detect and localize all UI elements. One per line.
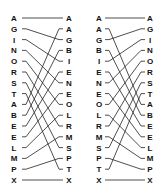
left-label: R: [11, 68, 17, 77]
left-label: T: [97, 165, 102, 174]
left-label: M: [96, 133, 103, 142]
connection-line: [105, 29, 145, 105]
left-label: N: [96, 79, 102, 88]
left-label: O: [96, 100, 102, 109]
right-label: X: [147, 176, 153, 185]
right-label: N: [66, 79, 72, 88]
left-label: A: [11, 100, 17, 109]
right-permutation-diagram: AAGBIENEOLRMSPTXAGINORSTABEELMPX: [96, 14, 154, 185]
left-label: I: [13, 36, 15, 45]
left-permutation-diagram: AGINORSTABEELMPXAAGBIENEOLRMSPTX: [11, 14, 73, 185]
right-label: I: [149, 36, 151, 45]
right-label: L: [67, 111, 72, 120]
right-label: E: [147, 122, 153, 131]
right-label: A: [66, 14, 72, 23]
right-label: T: [67, 165, 72, 174]
left-label: S: [11, 79, 17, 88]
left-label: A: [96, 14, 102, 23]
connection-line: [105, 137, 145, 159]
left-label: P: [11, 165, 17, 174]
right-label: P: [66, 154, 72, 163]
right-label: N: [147, 46, 153, 55]
left-label: L: [97, 111, 102, 120]
right-label: E: [147, 133, 153, 142]
left-label: B: [96, 46, 102, 55]
right-label: G: [66, 36, 72, 45]
left-label: X: [96, 176, 102, 185]
connection-line: [105, 40, 145, 62]
right-label: P: [147, 165, 153, 174]
left-label: E: [11, 133, 17, 142]
right-label: R: [147, 68, 153, 77]
right-label: X: [66, 176, 72, 185]
right-label: E: [66, 90, 72, 99]
left-label: S: [96, 144, 102, 153]
left-label: P: [96, 154, 102, 163]
right-label: M: [66, 133, 73, 142]
left-label: O: [11, 57, 17, 66]
right-label: B: [66, 46, 72, 55]
right-label: G: [147, 25, 153, 34]
right-label: O: [147, 57, 153, 66]
left-label: R: [96, 122, 102, 131]
right-label: I: [68, 57, 70, 66]
right-label: B: [147, 111, 153, 120]
connection-line: [22, 29, 63, 105]
right-label: T: [148, 90, 153, 99]
left-label: M: [11, 154, 18, 163]
right-label: M: [147, 154, 154, 163]
left-label: B: [11, 111, 17, 120]
right-label: R: [66, 122, 72, 131]
left-label: X: [11, 176, 17, 185]
left-label: A: [11, 14, 17, 23]
left-label: E: [96, 90, 102, 99]
right-label: A: [66, 25, 72, 34]
left-label: G: [11, 25, 17, 34]
left-label: I: [98, 57, 100, 66]
right-label: S: [147, 79, 153, 88]
left-label: G: [96, 36, 102, 45]
left-label: E: [96, 68, 102, 77]
right-label: E: [66, 68, 72, 77]
left-label: L: [12, 144, 17, 153]
connection-line: [22, 137, 63, 159]
left-label: N: [11, 46, 17, 55]
right-label: L: [148, 144, 153, 153]
permutation-diagrams: AGINORSTABEELMPXAAGBIENEOLRMSPTX AAGBIEN…: [0, 0, 162, 191]
right-label: O: [66, 100, 72, 109]
right-label: A: [147, 100, 153, 109]
left-label: A: [96, 25, 102, 34]
connection-line: [22, 40, 63, 62]
right-label: A: [147, 14, 153, 23]
left-label: T: [12, 90, 17, 99]
left-label: E: [11, 122, 17, 131]
right-label: S: [66, 144, 72, 153]
